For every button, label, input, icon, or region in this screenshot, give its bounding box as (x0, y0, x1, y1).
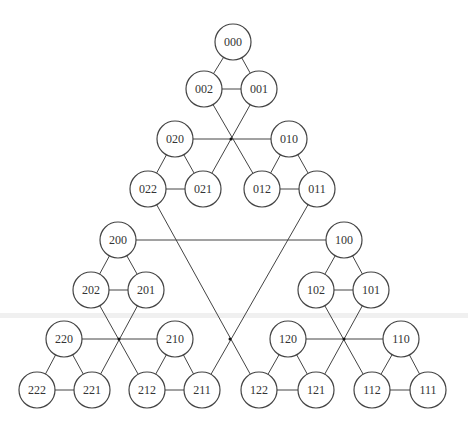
node-label: 201 (137, 283, 155, 297)
diagram-canvas: 0000020010200100220210120112001002022011… (0, 0, 468, 436)
node-121: 121 (298, 372, 334, 408)
node-011: 011 (299, 171, 335, 207)
node-label: 022 (139, 182, 157, 196)
node-220: 220 (46, 321, 82, 357)
node-label: 210 (166, 332, 184, 346)
node-label: 010 (280, 132, 298, 146)
edges-layer (37, 42, 428, 390)
node-012: 012 (244, 171, 280, 207)
node-label: 000 (224, 35, 242, 49)
node-020: 020 (157, 121, 193, 157)
node-002: 002 (186, 71, 222, 107)
node-label: 101 (362, 283, 380, 297)
node-100: 100 (326, 222, 362, 258)
node-label: 120 (279, 332, 297, 346)
node-label: 110 (392, 332, 410, 346)
node-label: 202 (82, 283, 100, 297)
node-000: 000 (215, 24, 251, 60)
crossing-dot (343, 338, 346, 341)
node-112: 112 (354, 372, 390, 408)
node-label: 100 (335, 233, 353, 247)
node-120: 120 (270, 321, 306, 357)
crossing-dot (229, 338, 232, 341)
node-label: 012 (253, 182, 271, 196)
node-222: 222 (19, 372, 55, 408)
node-label: 011 (308, 182, 326, 196)
node-label: 222 (28, 383, 46, 397)
node-212: 212 (129, 372, 165, 408)
nodes-layer: 0000020010200100220210120112001002022011… (19, 24, 446, 408)
node-001: 001 (241, 71, 277, 107)
sierpinski-graph: 0000020010200100220210120112001002022011… (0, 0, 468, 436)
node-200: 200 (100, 222, 136, 258)
node-102: 102 (298, 272, 334, 308)
node-label: 111 (419, 383, 436, 397)
node-label: 221 (83, 383, 101, 397)
node-110: 110 (383, 321, 419, 357)
node-221: 221 (74, 372, 110, 408)
crossing-dot (230, 138, 233, 141)
node-022: 022 (130, 171, 166, 207)
node-label: 122 (250, 383, 268, 397)
node-210: 210 (157, 321, 193, 357)
node-label: 212 (138, 383, 156, 397)
node-211: 211 (184, 372, 220, 408)
node-label: 211 (193, 383, 211, 397)
node-111: 111 (410, 372, 446, 408)
crossing-dots-layer (118, 138, 346, 341)
node-label: 121 (307, 383, 325, 397)
node-201: 201 (128, 272, 164, 308)
node-label: 102 (307, 283, 325, 297)
node-label: 200 (109, 233, 127, 247)
node-label: 001 (250, 82, 268, 96)
node-label: 112 (363, 383, 381, 397)
node-101: 101 (353, 272, 389, 308)
node-label: 220 (55, 332, 73, 346)
node-label: 002 (195, 82, 213, 96)
node-label: 020 (166, 132, 184, 146)
edge-022-122 (148, 189, 259, 390)
node-202: 202 (73, 272, 109, 308)
node-label: 021 (194, 182, 212, 196)
crossing-dot (118, 338, 121, 341)
node-010: 010 (271, 121, 307, 157)
node-021: 021 (185, 171, 221, 207)
node-122: 122 (241, 372, 277, 408)
